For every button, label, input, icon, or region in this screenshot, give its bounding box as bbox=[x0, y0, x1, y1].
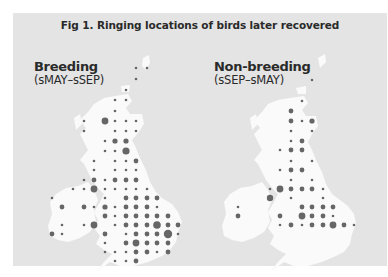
recovery-dot bbox=[145, 205, 150, 210]
recovery-dot bbox=[145, 250, 150, 255]
recovery-dot bbox=[134, 250, 139, 255]
recovery-dot bbox=[135, 120, 138, 123]
recovery-dot bbox=[83, 188, 86, 191]
recovery-dot bbox=[146, 188, 149, 191]
recovery-dot bbox=[166, 214, 171, 219]
recovery-dot bbox=[290, 140, 293, 143]
recovery-dot bbox=[114, 188, 117, 191]
recovery-dot bbox=[134, 196, 139, 201]
recovery-dot bbox=[104, 140, 107, 143]
recovery-dot bbox=[166, 223, 171, 228]
recovery-dot bbox=[156, 206, 159, 209]
recovery-dot bbox=[125, 233, 128, 236]
recovery-dot bbox=[104, 242, 107, 245]
breeding-period: (sMAY–sSEP) bbox=[34, 74, 104, 87]
recovery-dot bbox=[299, 213, 306, 220]
recovery-dot bbox=[104, 188, 107, 191]
recovery-dot bbox=[125, 251, 128, 254]
recovery-dot bbox=[114, 251, 117, 254]
recovery-dot bbox=[290, 197, 293, 200]
recovery-dot bbox=[124, 205, 129, 210]
recovery-dot bbox=[104, 197, 107, 200]
recovery-dot bbox=[310, 223, 315, 228]
recovery-dot bbox=[112, 138, 117, 143]
recovery-dot bbox=[104, 179, 107, 182]
recovery-dot bbox=[114, 215, 117, 218]
recovery-dot bbox=[153, 221, 161, 229]
recovery-dot bbox=[134, 178, 139, 183]
recovery-dot bbox=[135, 78, 138, 81]
recovery-dot bbox=[155, 241, 160, 246]
breeding-map-land bbox=[48, 55, 182, 272]
recovery-dot bbox=[123, 138, 128, 143]
recovery-dot bbox=[114, 150, 117, 153]
recovery-dot bbox=[332, 215, 335, 218]
recovery-dot bbox=[125, 188, 128, 191]
recovery-dot bbox=[83, 224, 86, 227]
recovery-dot bbox=[342, 223, 347, 228]
recovery-dot bbox=[310, 187, 315, 192]
recovery-dot bbox=[321, 223, 326, 228]
recovery-dot bbox=[114, 130, 117, 133]
recovery-dot bbox=[176, 223, 181, 228]
recovery-dot bbox=[155, 232, 160, 237]
recovery-dot bbox=[300, 205, 305, 210]
recovery-dot bbox=[164, 230, 172, 238]
recovery-dot bbox=[310, 205, 315, 210]
recovery-dot bbox=[322, 188, 325, 191]
recovery-dot bbox=[155, 196, 160, 201]
recovery-dot bbox=[278, 214, 283, 219]
recovery-dot bbox=[125, 89, 128, 92]
recovery-dot bbox=[125, 120, 128, 123]
recovery-dot bbox=[125, 169, 128, 172]
recovery-dot bbox=[279, 169, 282, 172]
recovery-dot bbox=[93, 160, 96, 163]
recovery-dot bbox=[104, 251, 107, 254]
recovery-dot bbox=[124, 178, 129, 183]
recovery-dot bbox=[311, 179, 314, 182]
recovery-dot bbox=[237, 206, 240, 209]
recovery-dot bbox=[125, 99, 128, 102]
recovery-dot bbox=[300, 148, 305, 153]
recovery-dot bbox=[311, 160, 314, 163]
recovery-dot bbox=[321, 205, 326, 210]
recovery-dot bbox=[125, 130, 128, 133]
recovery-dot bbox=[125, 160, 128, 163]
recovery-dot bbox=[267, 195, 273, 201]
recovery-dot bbox=[301, 120, 304, 123]
maps-canvas bbox=[0, 0, 388, 277]
recovery-dot bbox=[289, 223, 294, 228]
recovery-dot bbox=[135, 130, 138, 133]
nonbreeding-heading: Non-breeding bbox=[214, 60, 311, 74]
recovery-dot bbox=[310, 214, 315, 219]
recovery-dot bbox=[135, 188, 138, 191]
recovery-dot bbox=[134, 259, 139, 264]
recovery-dot bbox=[289, 148, 294, 153]
recovery-dot bbox=[311, 79, 314, 82]
recovery-dot bbox=[134, 159, 139, 164]
recovery-dot bbox=[60, 205, 65, 210]
recovery-dot bbox=[93, 206, 96, 209]
recovery-dot bbox=[300, 168, 305, 173]
breeding-map-label: Breeding (sMAY–sSEP) bbox=[34, 60, 104, 87]
recovery-dot bbox=[289, 109, 294, 114]
recovery-dot bbox=[134, 214, 139, 219]
recovery-dot bbox=[83, 120, 86, 123]
recovery-dot bbox=[236, 214, 241, 219]
recovery-dot bbox=[289, 187, 294, 192]
recovery-dot bbox=[92, 178, 97, 183]
recovery-dot bbox=[135, 169, 138, 172]
recovery-dot bbox=[122, 147, 129, 154]
recovery-dot bbox=[331, 205, 336, 210]
recovery-dot bbox=[124, 223, 129, 228]
recovery-dot bbox=[353, 224, 356, 227]
recovery-dot bbox=[279, 224, 282, 227]
recovery-dot bbox=[177, 233, 180, 236]
recovery-dot bbox=[155, 214, 160, 219]
recovery-dot bbox=[125, 260, 128, 263]
recovery-dot bbox=[124, 196, 129, 201]
nonbreeding-period: (sSEP–sMAY) bbox=[214, 74, 311, 87]
recovery-dot bbox=[91, 222, 98, 229]
recovery-dot bbox=[82, 205, 87, 210]
recovery-dot bbox=[134, 223, 139, 228]
